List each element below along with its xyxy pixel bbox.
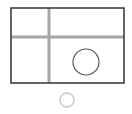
layout-diagram (0, 0, 132, 114)
radio-button-icon[interactable] (60, 93, 74, 107)
outer-frame (11, 8, 124, 83)
circle-icon (73, 49, 99, 75)
